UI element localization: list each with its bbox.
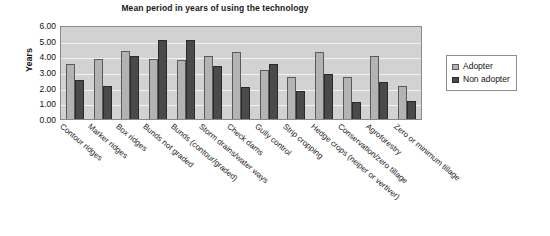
- y-axis-tick-label: 3.00: [24, 68, 56, 78]
- bar-adopter: [177, 60, 186, 119]
- bar-group: [144, 27, 172, 119]
- bar-adopter: [260, 70, 269, 119]
- bars-layer: [61, 27, 421, 119]
- bar-group: [227, 27, 255, 119]
- y-axis-tick-labels: 6.005.004.003.002.001.000.00: [24, 26, 56, 120]
- bar-adopter: [149, 59, 158, 119]
- x-axis-category-labels: Contour ridgesMarker ridgesBox ridgesBun…: [60, 122, 422, 232]
- bar-group: [283, 27, 311, 119]
- bar-non-adopter: [241, 87, 250, 119]
- y-axis-tick-label: 5.00: [24, 37, 56, 47]
- bar-non-adopter: [269, 64, 278, 119]
- y-axis-tick-label: 4.00: [24, 52, 56, 62]
- bar-non-adopter: [296, 91, 305, 119]
- legend-label-non-adopter: Non adopter: [463, 73, 510, 86]
- legend-swatch-icon-non-adopter: [452, 77, 459, 83]
- bar-adopter: [232, 52, 241, 119]
- legend-item-non-adopter: Non adopter: [452, 73, 510, 86]
- bar-adopter: [343, 77, 352, 119]
- bar-group: [338, 27, 366, 119]
- legend-label-adopter: Adopter: [463, 60, 493, 73]
- bar-chart-figure: Mean period in years of using the techno…: [0, 0, 550, 236]
- bar-group: [172, 27, 200, 119]
- bar-adopter: [94, 59, 103, 119]
- bar-adopter: [204, 56, 213, 119]
- plot-area: [60, 26, 422, 120]
- bar-non-adopter: [324, 74, 333, 119]
- bar-adopter: [287, 77, 296, 119]
- bar-non-adopter: [103, 86, 112, 119]
- bar-group: [116, 27, 144, 119]
- y-axis-tick-label: 1.00: [24, 99, 56, 109]
- bar-group: [366, 27, 394, 119]
- bar-non-adopter: [75, 80, 84, 119]
- bar-adopter: [370, 56, 379, 119]
- bar-non-adopter: [352, 102, 361, 119]
- bar-non-adopter: [130, 56, 139, 119]
- bar-adopter: [121, 51, 130, 119]
- bar-group: [89, 27, 117, 119]
- chart-legend: Adopter Non adopter: [446, 55, 517, 91]
- legend-swatch-icon-adopter: [452, 64, 459, 70]
- bar-adopter: [66, 64, 75, 119]
- bar-non-adopter: [213, 66, 222, 119]
- bar-adopter: [398, 86, 407, 119]
- chart-title: Mean period in years of using the techno…: [0, 3, 430, 13]
- y-axis-tick-label: 2.00: [24, 84, 56, 94]
- bar-non-adopter: [379, 82, 388, 119]
- bar-group: [61, 27, 89, 119]
- y-axis-tick-label: 6.00: [24, 21, 56, 31]
- bar-group: [310, 27, 338, 119]
- bar-non-adopter: [407, 101, 416, 119]
- bar-non-adopter: [158, 40, 167, 119]
- bar-group: [393, 27, 421, 119]
- bar-group: [199, 27, 227, 119]
- bar-adopter: [315, 52, 324, 119]
- legend-item-adopter: Adopter: [452, 60, 510, 73]
- y-axis-tick-label: 0.00: [24, 115, 56, 125]
- bar-non-adopter: [186, 40, 195, 119]
- bar-group: [255, 27, 283, 119]
